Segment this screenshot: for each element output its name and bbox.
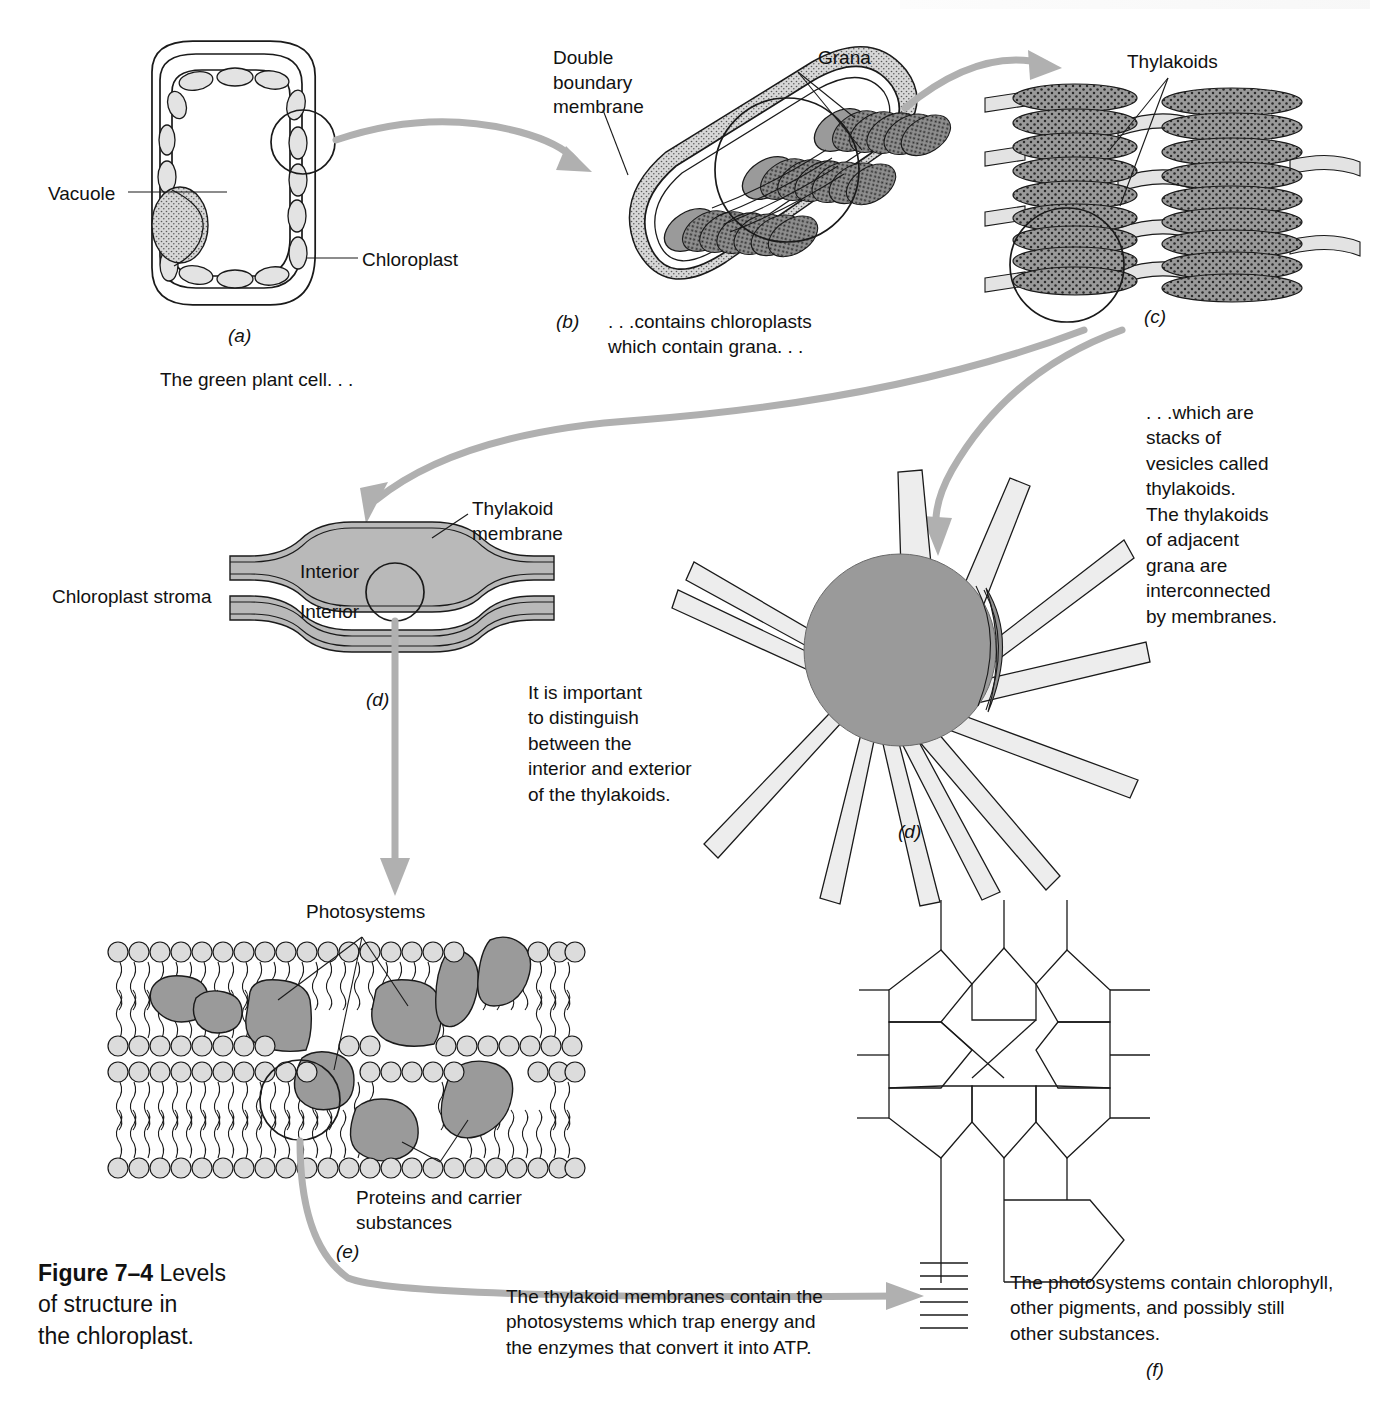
panel-b-chloroplast	[603, 47, 958, 310]
figure-caption-number: Figure 7–4	[38, 1260, 153, 1286]
label-chloroplast-stroma: Chloroplast stroma	[52, 585, 211, 610]
note-interior-exterior: It is important to distinguish between t…	[528, 680, 768, 807]
arrow-dleft-to-e	[380, 621, 410, 896]
label-vacuole: Vacuole	[48, 182, 115, 207]
label-double-boundary-membrane: Double boundary membrane	[553, 46, 644, 120]
label-proteins-carrier-substances: Proteins and carrier substances	[356, 1186, 522, 1235]
panel-key-a: (a)	[228, 324, 251, 349]
note-photosystems-chlorophyll: The photosystems contain chlorophyll, ot…	[1010, 1270, 1370, 1346]
label-interior-bottom: Interior	[300, 600, 359, 625]
label-photosystems: Photosystems	[306, 900, 425, 925]
label-thylakoid-membrane: Thylakoid membrane	[472, 497, 563, 546]
panel-key-c: (c)	[1144, 305, 1166, 330]
arrow-c-to-dright	[922, 330, 1122, 556]
panel-c-grana	[985, 78, 1360, 322]
panel-key-d-left: (d)	[366, 688, 389, 713]
arrow-a-to-b	[336, 122, 592, 172]
label-thylakoids: Thylakoids	[1127, 50, 1218, 75]
panel-f-chlorophyll-structure	[857, 900, 1150, 1328]
label-grana: Grana	[818, 46, 871, 71]
panel-e-membrane-bilayers	[108, 937, 585, 1178]
label-chloroplast: Chloroplast	[362, 248, 458, 273]
note-thylakoid-membranes: The thylakoid membranes contain the phot…	[506, 1284, 976, 1360]
panel-key-f: (f)	[1146, 1358, 1164, 1383]
panel-a-subtitle: The green plant cell. . .	[160, 368, 353, 393]
panel-key-b: (b)	[556, 310, 579, 335]
panel-key-d-right: (d)	[898, 820, 921, 845]
panel-b-subtitle: . . .contains chloroplasts which contain…	[608, 310, 812, 359]
panel-a-plant-cell	[128, 41, 358, 305]
note-thylakoid-stacks: . . .which are stacks of vesicles called…	[1146, 400, 1366, 629]
panel-key-e: (e)	[336, 1240, 359, 1265]
label-interior-top: Interior	[300, 560, 359, 585]
figure-caption: Figure 7–4 Levels of structure in the ch…	[38, 1258, 318, 1352]
